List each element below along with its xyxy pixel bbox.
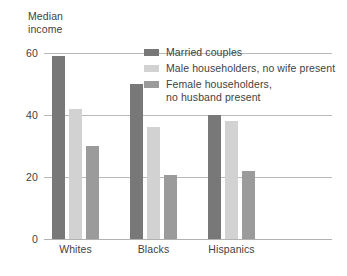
chart-legend: Married couplesMale householders, no wif…	[144, 46, 344, 106]
bar	[69, 109, 82, 239]
category-label-blacks: Blacks	[138, 243, 170, 255]
bar	[164, 175, 177, 239]
y-tick-label: 0	[32, 233, 38, 245]
legend-swatch-icon	[144, 49, 159, 56]
y-tick-label: 60	[26, 47, 38, 59]
x-axis-category-labels: WhitesBlacksHispanics	[44, 243, 332, 261]
bar	[130, 84, 143, 239]
bar	[86, 146, 99, 239]
gridline-0	[44, 239, 332, 240]
legend-swatch-icon	[144, 65, 159, 72]
bar	[225, 121, 238, 239]
legend-label: Male householders, no wife present	[166, 62, 335, 75]
bar-chart: Median income 0204060 WhitesBlacksHispan…	[0, 0, 347, 276]
category-label-whites: Whites	[59, 243, 92, 255]
legend-label: Married couples	[166, 46, 242, 59]
legend-item: Female householders, no husband present	[144, 78, 344, 103]
y-axis-tick-labels: 0204060	[14, 53, 38, 239]
y-tick-label: 20	[26, 171, 38, 183]
legend-swatch-icon	[144, 81, 159, 88]
bar	[208, 115, 221, 239]
y-axis-title: Median income	[28, 10, 63, 36]
legend-item: Married couples	[144, 46, 344, 59]
bar	[147, 127, 160, 239]
bar	[52, 56, 65, 239]
legend-item: Male householders, no wife present	[144, 62, 344, 75]
category-label-hispanics: Hispanics	[208, 243, 254, 255]
bar	[242, 171, 255, 239]
legend-label: Female householders, no husband present	[166, 78, 272, 103]
y-tick-label: 40	[26, 109, 38, 121]
